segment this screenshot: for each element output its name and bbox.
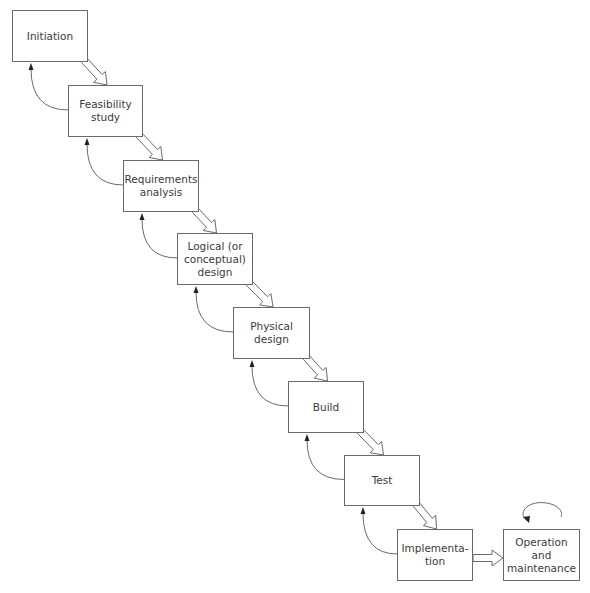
arrowhead-icon — [194, 286, 199, 293]
feedback-arrow — [307, 440, 344, 479]
stage-build: Build — [288, 381, 364, 433]
stage-label: Requirements analysis — [125, 173, 198, 199]
stage-operation-maintenance: Operation and maintenance — [503, 529, 580, 581]
arrowhead-icon — [140, 213, 145, 220]
waterfall-diagram: Initiation Feasibility study Requirement… — [0, 0, 590, 593]
stage-feasibility-study: Feasibility study — [68, 85, 143, 137]
stage-logical-design: Logical (or conceptual) design — [177, 233, 253, 285]
arrowhead-icon — [29, 63, 34, 70]
arrowhead-icon — [361, 507, 366, 514]
feedback-arrow — [363, 513, 397, 554]
stage-label: Build — [313, 401, 339, 414]
arrowhead-icon — [250, 360, 255, 367]
stage-label: Test — [372, 474, 393, 487]
stage-initiation: Initiation — [12, 10, 88, 62]
stage-implementation: Implementa- tion — [397, 529, 473, 581]
stage-label: Physical design — [250, 320, 293, 346]
stage-label: Feasibility study — [79, 98, 132, 124]
feedback-arrow — [252, 366, 288, 406]
stage-requirements-analysis: Requirements analysis — [123, 160, 199, 212]
stage-test: Test — [344, 455, 420, 506]
stage-physical-design: Physical design — [233, 307, 310, 359]
feedback-arrow — [142, 219, 177, 258]
stage-label: Initiation — [27, 30, 73, 43]
forward-arrow — [473, 550, 503, 566]
arrowhead-icon — [305, 434, 310, 441]
stage-label: Implementa- tion — [401, 542, 468, 568]
feedback-arrow — [87, 144, 123, 185]
feedback-arrow — [196, 292, 233, 332]
stage-label: Operation and maintenance — [507, 536, 576, 575]
feedback-arrow — [31, 69, 68, 110]
stage-label: Logical (or conceptual) design — [184, 240, 246, 279]
arrowhead-icon — [85, 138, 90, 145]
arrowhead-icon — [523, 516, 530, 523]
